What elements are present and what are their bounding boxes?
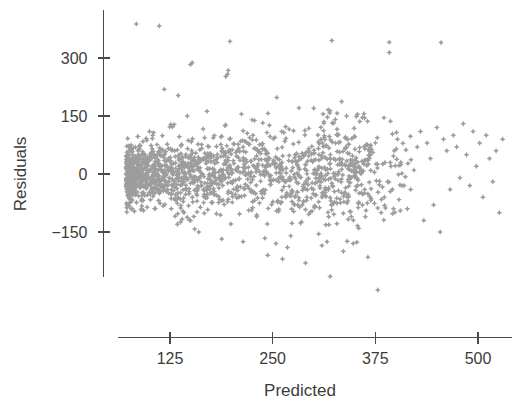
data-point	[350, 241, 356, 247]
data-point	[262, 235, 268, 241]
data-point	[257, 200, 263, 206]
data-point	[289, 220, 295, 226]
data-point	[149, 136, 155, 142]
data-point	[227, 38, 233, 44]
data-point	[403, 147, 409, 153]
data-point	[344, 113, 350, 119]
x-tick-label: 500	[465, 350, 492, 367]
data-point	[381, 115, 387, 121]
data-point	[424, 140, 430, 146]
data-point	[274, 95, 280, 101]
y-axis-title: Residuals	[11, 137, 30, 212]
data-point	[274, 146, 280, 152]
data-point	[331, 189, 337, 195]
data-point	[431, 202, 437, 208]
data-point	[483, 132, 489, 138]
data-point	[414, 144, 420, 150]
data-point	[286, 153, 292, 159]
data-point	[279, 194, 285, 200]
data-point	[147, 129, 153, 135]
data-point	[386, 39, 392, 45]
data-point	[402, 174, 408, 180]
data-point	[327, 274, 333, 280]
x-axis-title: Predicted	[264, 381, 336, 400]
data-point	[351, 125, 357, 131]
x-tick-label: 125	[157, 350, 184, 367]
data-point	[368, 186, 374, 192]
data-point	[303, 207, 309, 213]
data-point	[245, 164, 251, 170]
data-point	[496, 210, 502, 216]
data-point	[239, 111, 245, 117]
data-point	[217, 212, 223, 218]
data-point	[326, 134, 332, 140]
data-point	[438, 40, 444, 46]
data-point	[408, 133, 414, 139]
data-point	[124, 209, 130, 215]
data-point	[447, 187, 453, 193]
data-point	[258, 178, 264, 184]
x-tick-label: 250	[259, 350, 286, 367]
data-point	[340, 210, 346, 216]
data-point	[168, 196, 174, 202]
data-point	[339, 99, 345, 105]
data-point	[135, 134, 141, 140]
data-point	[327, 161, 333, 167]
data-point	[265, 110, 271, 116]
data-point	[470, 129, 476, 135]
data-point	[324, 239, 330, 245]
data-point	[340, 248, 346, 254]
data-point	[125, 135, 131, 141]
data-point	[219, 236, 225, 242]
data-point	[341, 199, 347, 205]
data-point	[194, 198, 200, 204]
data-point	[273, 241, 279, 247]
data-point	[357, 145, 363, 151]
data-point	[253, 182, 259, 188]
data-point	[362, 214, 368, 220]
data-point	[218, 134, 224, 140]
data-point	[365, 254, 371, 260]
data-point	[229, 199, 235, 205]
data-point	[197, 204, 203, 210]
data-point	[348, 209, 354, 215]
data-point	[195, 141, 201, 147]
data-point	[184, 113, 190, 119]
data-point	[444, 148, 450, 154]
data-point	[201, 210, 207, 216]
data-point	[291, 128, 297, 134]
data-point	[386, 50, 392, 56]
data-point	[467, 183, 473, 189]
data-point	[139, 203, 145, 209]
data-point	[327, 195, 333, 201]
data-point	[288, 233, 294, 239]
data-point	[136, 193, 142, 199]
data-point	[220, 197, 226, 203]
data-point	[395, 136, 401, 142]
data-point	[344, 238, 350, 244]
data-point	[240, 144, 246, 150]
data-point	[191, 214, 197, 220]
data-point	[144, 204, 150, 210]
data-point	[387, 160, 393, 166]
data-point	[316, 231, 322, 237]
data-point	[192, 226, 198, 232]
data-point	[400, 140, 406, 146]
data-point	[303, 260, 309, 266]
y-tick-label: 150	[61, 108, 88, 125]
data-point	[152, 206, 158, 212]
data-point	[394, 130, 400, 136]
data-point	[480, 194, 486, 200]
data-point	[236, 176, 242, 182]
data-point	[164, 141, 170, 147]
data-point	[334, 221, 340, 227]
data-point	[140, 139, 146, 145]
data-point	[363, 208, 369, 214]
data-point	[240, 239, 246, 245]
data-point	[265, 205, 271, 211]
y-tick-label: 300	[61, 50, 88, 67]
data-point	[244, 130, 250, 136]
data-point	[186, 203, 192, 209]
data-point	[454, 144, 460, 150]
data-point	[375, 205, 381, 211]
